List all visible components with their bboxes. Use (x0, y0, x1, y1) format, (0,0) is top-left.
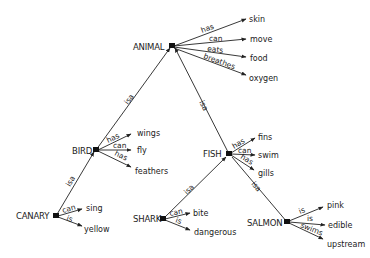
node-salmon-marker (284, 219, 290, 224)
prop-dangerous: dangerous (194, 228, 236, 237)
prop-yellow: yellow (84, 225, 110, 234)
prop-wings: wings (137, 129, 160, 138)
prop-fins: fins (258, 133, 272, 142)
label-shark-isa: isa (182, 183, 196, 197)
shark-properties: can bite is dangerous (165, 206, 236, 237)
node-fish: FISH (203, 149, 221, 159)
fish-properties: has fins can swim has gills (231, 133, 279, 178)
node-canary: CANARY (16, 211, 50, 221)
svg-text:has: has (239, 152, 255, 167)
node-canary-marker (53, 213, 59, 218)
prop-bite: bite (193, 209, 208, 218)
svg-text:can: can (113, 141, 127, 150)
canary-properties: can sing is yellow (58, 202, 110, 234)
prop-oxygen: oxygen (249, 74, 278, 83)
prop-sing: sing (86, 204, 103, 213)
svg-text:swims: swims (299, 221, 324, 238)
svg-text:has: has (113, 149, 129, 163)
prop-skin: skin (249, 15, 265, 24)
node-shark: SHARK (133, 214, 162, 224)
prop-move: move (250, 35, 272, 44)
salmon-properties: is pink is edible swims upstream (289, 201, 365, 249)
bird-properties: has wings can fly has feathers (98, 129, 168, 176)
svg-text:can: can (209, 34, 223, 43)
node-fish-marker (226, 151, 232, 156)
prop-food: food (250, 54, 268, 63)
prop-edible: edible (328, 221, 353, 230)
prop-gills: gills (258, 169, 274, 178)
semantic-network-diagram: isa isa isa isa isa has skin can move ea… (0, 0, 370, 258)
prop-pink: pink (327, 201, 344, 210)
label-fish-isa: isa (197, 99, 210, 113)
node-animal-marker (169, 43, 175, 48)
svg-text:has: has (200, 22, 216, 35)
label-canary-isa: isa (64, 174, 77, 188)
node-salmon: SALMON (247, 218, 282, 228)
prop-fly: fly (137, 146, 147, 155)
label-bird-isa: isa (122, 92, 136, 106)
node-animal: ANIMAL (133, 42, 165, 52)
prop-upstream: upstream (327, 240, 365, 249)
prop-feathers: feathers (135, 167, 168, 176)
animal-properties: has skin can move eats food breathes oxy… (174, 15, 278, 83)
prop-swim: swim (258, 151, 279, 160)
node-bird-marker (93, 147, 99, 152)
node-bird: BIRD (72, 146, 93, 156)
